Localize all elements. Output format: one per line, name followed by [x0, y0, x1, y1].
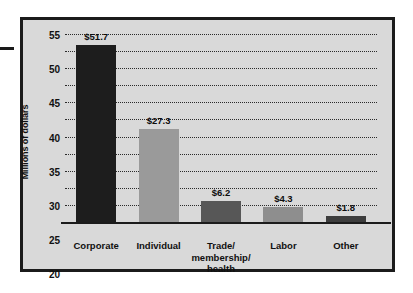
x-axis-category-label-line: health: [175, 263, 267, 275]
y-axis-tick-label: 45: [49, 98, 60, 109]
y-axis-tick-label: 55: [49, 30, 60, 41]
bars-layer: $51.7Corporate$27.3Individual$6.2Trade/m…: [65, 34, 377, 222]
bar[interactable]: [139, 129, 179, 222]
bar-group: $27.3Individual: [127, 34, 189, 222]
x-axis-line: [61, 222, 391, 224]
bar-group: $6.2Trade/membership/health: [190, 34, 252, 222]
y-axis-title: Millions of dollars: [20, 72, 36, 212]
bar-group: $4.3Labor: [252, 34, 314, 222]
x-axis-category-label-line: membership/: [175, 252, 267, 264]
x-axis-category-label: Other: [300, 240, 392, 252]
left-edge-dash-mark: [0, 47, 14, 50]
y-axis-tick-label: 50: [49, 64, 60, 75]
y-axis-tick-label: 35: [49, 166, 60, 177]
y-axis-tick-label: 20: [49, 269, 60, 280]
y-axis-tick-label: 30: [49, 200, 60, 211]
bar-value-label: $51.7: [84, 31, 108, 42]
bar[interactable]: [76, 45, 116, 222]
bar-value-label: $27.3: [147, 115, 171, 126]
bar[interactable]: [201, 201, 241, 222]
bar-value-label: $1.8: [337, 202, 356, 213]
bar-group: $1.8Other: [315, 34, 377, 222]
bar-group: $51.7Corporate: [65, 34, 127, 222]
bar[interactable]: [326, 216, 366, 222]
bar-value-label: $4.3: [274, 193, 293, 204]
chart-frame: Millions of dollars 55504540353025201510…: [20, 17, 395, 272]
y-axis-tick-label: 40: [49, 132, 60, 143]
bar-value-label: $6.2: [212, 187, 231, 198]
x-axis-category-label-line: Other: [300, 240, 392, 252]
bar[interactable]: [263, 207, 303, 222]
